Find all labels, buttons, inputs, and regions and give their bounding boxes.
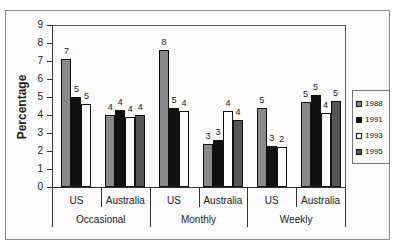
y-tick bbox=[47, 25, 52, 26]
y-tick-label: 1 bbox=[33, 163, 43, 174]
legend-label: 1993 bbox=[365, 131, 383, 140]
bar-1988 bbox=[61, 59, 71, 187]
bar-1995 bbox=[135, 115, 145, 187]
y-tick bbox=[47, 61, 52, 62]
y-tick bbox=[47, 169, 52, 170]
bar-1993 bbox=[179, 111, 189, 187]
bar-value-label: 2 bbox=[276, 134, 288, 144]
bar-1993 bbox=[125, 117, 135, 187]
y-tick-label: 5 bbox=[33, 91, 43, 102]
y-tick bbox=[47, 133, 52, 134]
group-label: Occasional bbox=[52, 214, 150, 225]
legend-label: 1988 bbox=[365, 99, 383, 108]
y-tick bbox=[47, 79, 52, 80]
y-tick bbox=[47, 151, 52, 152]
category-label: Australia bbox=[199, 195, 248, 206]
y-tick-label: 3 bbox=[33, 127, 43, 138]
legend-item: 1993 bbox=[356, 131, 383, 140]
y-tick-label: 9 bbox=[33, 19, 43, 30]
legend-swatch-icon bbox=[356, 149, 362, 155]
legend-item: 1995 bbox=[356, 147, 383, 156]
bar-1988 bbox=[105, 115, 115, 187]
bar-1991 bbox=[213, 140, 223, 187]
y-tick-label: 4 bbox=[33, 109, 43, 120]
legend-item: 1991 bbox=[356, 115, 383, 124]
bar-value-label: 5 bbox=[80, 91, 92, 101]
y-tick-label: 6 bbox=[33, 73, 43, 84]
axis-separator bbox=[296, 187, 297, 207]
y-axis-title: Percentage bbox=[15, 75, 29, 140]
category-label: US bbox=[247, 195, 296, 206]
bar-1991 bbox=[267, 146, 277, 187]
y-tick bbox=[47, 43, 52, 44]
category-label: Australia bbox=[101, 195, 150, 206]
y-tick-label: 7 bbox=[33, 55, 43, 66]
bar-value-label: 5 bbox=[310, 82, 322, 92]
bar-1995 bbox=[331, 101, 341, 187]
bar-value-label: 4 bbox=[134, 102, 146, 112]
bar-1993 bbox=[81, 104, 91, 187]
bar-1988 bbox=[203, 144, 213, 187]
bar-value-label: 7 bbox=[60, 46, 72, 56]
bar-1988 bbox=[257, 108, 267, 187]
bar-1988 bbox=[301, 102, 311, 187]
bar-value-label: 5 bbox=[256, 95, 268, 105]
category-label: Australia bbox=[296, 195, 345, 206]
bar-value-label: 4 bbox=[232, 107, 244, 117]
legend: 1988199119931995 bbox=[352, 90, 390, 164]
legend-item: 1988 bbox=[356, 99, 383, 108]
category-label: US bbox=[150, 195, 199, 206]
category-label: US bbox=[52, 195, 101, 206]
legend-label: 1995 bbox=[365, 147, 383, 156]
bar-1991 bbox=[169, 108, 179, 187]
bar-1988 bbox=[159, 50, 169, 187]
y-tick bbox=[47, 97, 52, 98]
legend-swatch-icon bbox=[356, 117, 362, 123]
group-label: Weekly bbox=[247, 214, 345, 225]
bar-1991 bbox=[71, 97, 81, 187]
bar-value-label: 5 bbox=[330, 88, 342, 98]
group-label: Monthly bbox=[150, 214, 248, 225]
bar-1991 bbox=[115, 110, 125, 187]
legend-swatch-icon bbox=[356, 101, 362, 107]
y-tick-label: 2 bbox=[33, 145, 43, 156]
y-tick bbox=[47, 115, 52, 116]
bar-value-label: 8 bbox=[158, 37, 170, 47]
y-tick-label: 0 bbox=[33, 181, 43, 192]
axis-separator bbox=[345, 187, 346, 227]
legend-label: 1991 bbox=[365, 115, 383, 124]
bar-1993 bbox=[277, 147, 287, 187]
legend-swatch-icon bbox=[356, 133, 362, 139]
bar-1993 bbox=[321, 113, 331, 187]
axis-separator bbox=[101, 187, 102, 207]
axis-separator bbox=[199, 187, 200, 207]
bar-1993 bbox=[223, 111, 233, 187]
y-tick-label: 8 bbox=[33, 37, 43, 48]
bar-value-label: 4 bbox=[178, 98, 190, 108]
bar-1995 bbox=[233, 120, 243, 187]
